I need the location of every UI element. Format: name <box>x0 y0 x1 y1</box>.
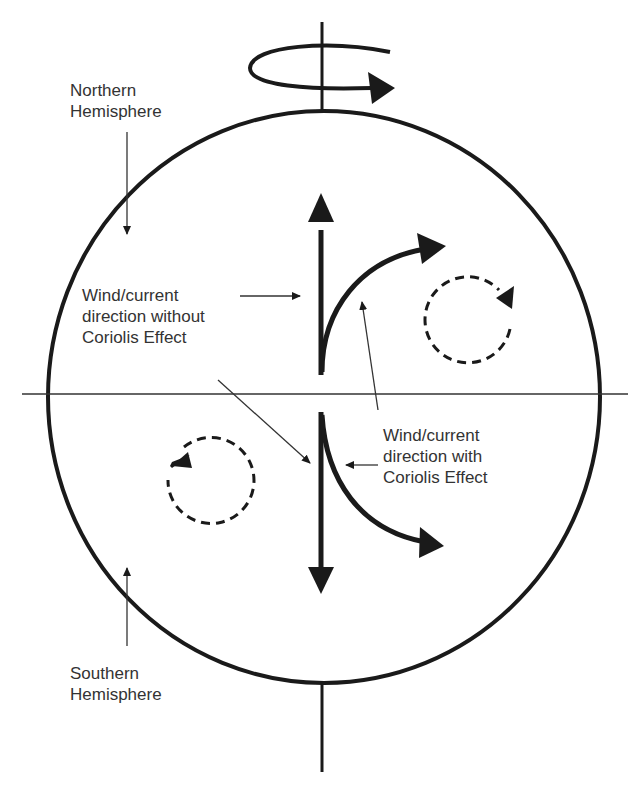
counterclockwise-dashed-circle-icon <box>168 437 254 523</box>
without-coriolis-label: Wind/current direction without Coriolis … <box>82 285 205 348</box>
south-straight-arrow-icon <box>308 412 334 594</box>
with-coriolis-label: Wind/current direction with Coriolis Eff… <box>383 425 488 488</box>
southern-hemisphere-label: Southern Hemisphere <box>70 663 162 705</box>
clockwise-dashed-circle-icon <box>425 277 514 363</box>
northern-hemisphere-label: Northern Hemisphere <box>70 80 162 122</box>
north-straight-arrow-icon <box>308 193 334 375</box>
earth-globe <box>48 111 600 683</box>
without-pointer-arrow-2 <box>218 380 310 463</box>
